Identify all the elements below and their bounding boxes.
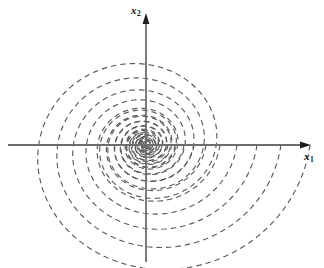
x2-axis-label-subscript: 2 xyxy=(137,9,141,18)
x2-axis-arrowhead xyxy=(143,13,150,24)
phase-plot-canvas xyxy=(0,0,324,268)
trajectory-curve xyxy=(57,78,281,248)
phase-portrait-figure: x2 x1 xyxy=(0,0,324,268)
x1-axis-label-text: x xyxy=(304,150,310,162)
trajectory-curves xyxy=(38,64,310,268)
x1-axis-label: x1 xyxy=(304,151,313,162)
axes xyxy=(8,13,311,262)
x2-axis-label-text: x xyxy=(131,4,137,16)
x1-axis-label-subscript: 1 xyxy=(310,155,314,164)
x2-axis-label: x2 xyxy=(131,5,140,16)
